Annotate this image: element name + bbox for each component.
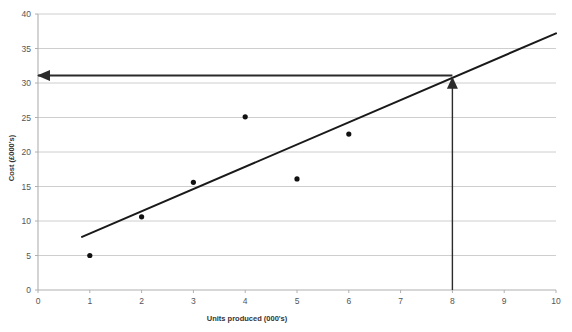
x-axis-title: Units produced (000's) — [207, 314, 288, 323]
y-tick-label: 5 — [26, 251, 31, 261]
x-tick-label: 10 — [551, 296, 561, 306]
chart-canvas: 0510152025303540 012345678910 Cost (£000… — [0, 0, 572, 332]
data-point — [243, 114, 248, 119]
x-tick-label: 8 — [450, 296, 455, 306]
x-tick-label: 1 — [87, 296, 92, 306]
y-tick-label: 35 — [22, 44, 32, 54]
y-axis-title: Cost (£000's) — [7, 134, 16, 181]
y-tick-label: 40 — [22, 9, 32, 19]
x-tick-label: 3 — [191, 296, 196, 306]
data-point — [87, 253, 92, 258]
scatter-chart: 0510152025303540 012345678910 Cost (£000… — [0, 0, 572, 332]
data-point — [346, 131, 351, 136]
data-point — [294, 176, 299, 181]
y-tick-label: 25 — [22, 113, 32, 123]
y-tick-label: 10 — [22, 216, 32, 226]
x-tick-label: 4 — [243, 296, 248, 306]
y-tick-label: 15 — [22, 182, 32, 192]
data-point — [191, 180, 196, 185]
x-tick-label: 7 — [398, 296, 403, 306]
y-tick-label: 0 — [26, 285, 31, 295]
x-tick-label: 5 — [295, 296, 300, 306]
x-tick-label: 2 — [139, 296, 144, 306]
x-tick-label: 6 — [346, 296, 351, 306]
y-tick-label: 20 — [22, 147, 32, 157]
x-tick-label: 0 — [36, 296, 41, 306]
x-tick-label: 9 — [502, 296, 507, 306]
data-point — [139, 214, 144, 219]
y-tick-label: 30 — [22, 78, 32, 88]
chart-background — [0, 0, 572, 332]
